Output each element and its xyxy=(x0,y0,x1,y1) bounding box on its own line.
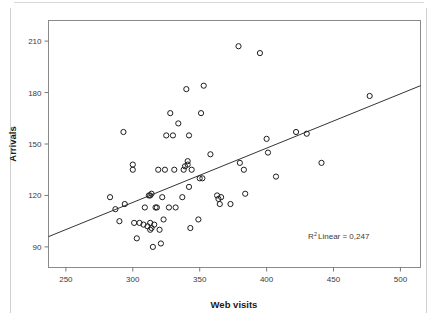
y-tick-label: 90 xyxy=(33,243,42,252)
data-point xyxy=(293,129,298,134)
r-squared-annotation: R 2 Linear = 0,247 xyxy=(308,231,370,242)
data-point xyxy=(241,167,246,172)
y-tick-label: 150 xyxy=(28,140,42,149)
data-point xyxy=(228,201,233,206)
data-point xyxy=(201,83,206,88)
y-axis-ticks xyxy=(45,41,49,247)
data-point xyxy=(158,241,163,246)
data-point xyxy=(236,44,241,49)
data-point xyxy=(264,136,269,141)
data-point xyxy=(186,133,191,138)
data-point xyxy=(166,205,171,210)
data-point xyxy=(162,167,167,172)
r-squared-exponent: 2 xyxy=(314,231,317,237)
data-point xyxy=(130,162,135,167)
data-points xyxy=(107,44,372,250)
data-point xyxy=(157,227,162,232)
x-tick-label: 500 xyxy=(394,275,408,284)
data-point xyxy=(117,219,122,224)
chart-canvas: 250300350400450500 90120150180210 Web vi… xyxy=(0,0,437,315)
data-point xyxy=(196,217,201,222)
r-squared-text: Linear = 0,247 xyxy=(318,232,370,241)
data-point xyxy=(121,129,126,134)
y-tick-label: 180 xyxy=(28,89,42,98)
data-point xyxy=(186,184,191,189)
x-axis-tick-labels: 250300350400450500 xyxy=(59,275,407,284)
data-point xyxy=(168,111,173,116)
y-axis-title: Arrivals xyxy=(7,126,18,161)
data-point xyxy=(150,244,155,249)
plot-frame xyxy=(49,21,421,268)
data-point xyxy=(170,133,175,138)
data-point xyxy=(156,167,161,172)
x-axis-title: Web visits xyxy=(211,299,258,310)
data-point xyxy=(160,195,165,200)
data-point xyxy=(130,167,135,172)
x-tick-label: 350 xyxy=(193,275,207,284)
data-point xyxy=(217,201,222,206)
x-tick-label: 250 xyxy=(59,275,73,284)
data-point xyxy=(198,111,203,116)
data-point xyxy=(173,205,178,210)
regression-line xyxy=(49,86,421,237)
data-point xyxy=(107,195,112,200)
data-point xyxy=(172,167,177,172)
data-point xyxy=(134,236,139,241)
data-point xyxy=(164,133,169,138)
y-tick-label: 120 xyxy=(28,191,42,200)
x-tick-label: 400 xyxy=(260,275,274,284)
scatter-plot: 250300350400450500 90120150180210 Web vi… xyxy=(0,0,437,315)
x-axis-ticks xyxy=(66,268,401,272)
data-point xyxy=(319,160,324,165)
data-point xyxy=(181,167,186,172)
data-point xyxy=(132,220,137,225)
data-point xyxy=(142,205,147,210)
data-point xyxy=(265,150,270,155)
data-point xyxy=(184,87,189,92)
data-point xyxy=(189,167,194,172)
data-point xyxy=(208,152,213,157)
x-tick-label: 300 xyxy=(126,275,140,284)
data-point xyxy=(188,225,193,230)
data-point xyxy=(161,217,166,222)
data-point xyxy=(367,93,372,98)
data-point xyxy=(237,160,242,165)
data-point xyxy=(176,121,181,126)
x-tick-label: 450 xyxy=(327,275,341,284)
y-axis-tick-labels: 90120150180210 xyxy=(28,37,42,252)
data-point xyxy=(180,195,185,200)
y-tick-label: 210 xyxy=(28,37,42,46)
data-point xyxy=(273,174,278,179)
data-point xyxy=(257,50,262,55)
data-point xyxy=(243,191,248,196)
